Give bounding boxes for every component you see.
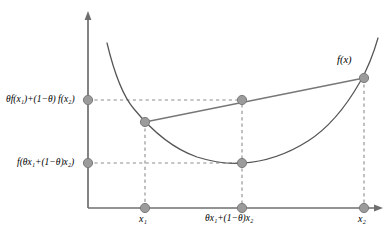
dot-x-axis-theta <box>237 203 246 212</box>
axis-label-lower-value: f(θx₁+(1−θ)x₂) <box>17 158 74 168</box>
axis-label-x-midpoint: θx₁+(1−θ)x₂ <box>205 214 253 224</box>
x-axis-arrowhead <box>374 205 383 212</box>
dashed-guides <box>88 78 364 209</box>
curve-label-fx: f(x) <box>337 55 352 66</box>
axis-label-x1: x₁ <box>139 214 147 224</box>
dot-curve-at-theta <box>237 158 246 167</box>
dot-chord-at-theta <box>237 95 246 104</box>
dot-x-axis-x1 <box>140 203 149 212</box>
dot-y-axis-lower <box>83 158 92 167</box>
marker-dots <box>83 73 368 212</box>
axis-label-x2: x₂ <box>358 214 366 224</box>
axes <box>85 11 383 211</box>
axis-label-upper-value: θf(x₁)+(1−θ) f(x₂) <box>6 95 75 105</box>
dot-y-axis-upper <box>83 95 92 104</box>
dot-x-axis-x2 <box>359 203 368 212</box>
dot-curve-at-x2 <box>359 73 368 82</box>
dot-curve-at-x1 <box>140 117 149 126</box>
y-axis-arrowhead <box>85 11 92 20</box>
convexity-diagram <box>0 0 388 238</box>
